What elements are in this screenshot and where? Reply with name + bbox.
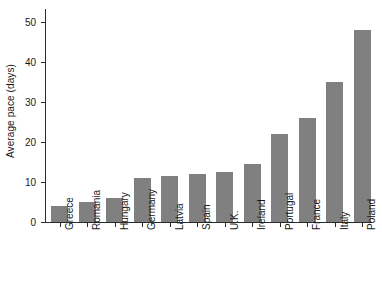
- x-tick-mark: [142, 223, 143, 227]
- y-tick-mark: [41, 22, 45, 23]
- x-tick-mark: [87, 223, 88, 227]
- x-tick-label: Portugal: [284, 193, 295, 230]
- x-tick-mark: [335, 223, 336, 227]
- x-tick-label: France: [311, 199, 322, 230]
- bar: [326, 82, 343, 222]
- x-tick-mark: [280, 223, 281, 227]
- y-tick-label: 10: [0, 177, 36, 188]
- bar: [354, 30, 371, 222]
- x-tick-label: Romania: [91, 190, 102, 230]
- y-tick-mark: [41, 182, 45, 183]
- x-tick-mark: [115, 223, 116, 227]
- x-tick-label: Greece: [64, 197, 75, 230]
- y-tick-mark: [41, 222, 45, 223]
- x-tick-label: Poland: [366, 199, 377, 230]
- y-tick-label: 40: [0, 57, 36, 68]
- y-tick-label: 20: [0, 137, 36, 148]
- x-tick-label: Ireland: [256, 199, 267, 230]
- y-tick-label: 0: [0, 217, 36, 228]
- x-tick-label: U.K.: [229, 211, 240, 230]
- y-tick-mark: [41, 142, 45, 143]
- x-tick-mark: [170, 223, 171, 227]
- x-tick-mark: [197, 223, 198, 227]
- y-tick-mark: [41, 102, 45, 103]
- x-tick-mark: [307, 223, 308, 227]
- x-tick-label: Hungary: [119, 192, 130, 230]
- x-tick-label: Spain: [201, 204, 212, 230]
- bar-chart: Average pace (days) 01020304050 GreeceRo…: [0, 0, 382, 283]
- x-tick-label: Germany: [146, 189, 157, 230]
- x-tick-label: Latvia: [174, 203, 185, 230]
- y-tick-label: 30: [0, 97, 36, 108]
- y-tick-mark: [41, 62, 45, 63]
- x-tick-mark: [225, 223, 226, 227]
- y-tick-label: 50: [0, 17, 36, 28]
- x-tick-mark: [362, 223, 363, 227]
- y-axis-title: Average pace (days): [2, 0, 18, 222]
- x-tick-mark: [252, 223, 253, 227]
- x-tick-mark: [60, 223, 61, 227]
- x-tick-label: Italy: [339, 212, 350, 230]
